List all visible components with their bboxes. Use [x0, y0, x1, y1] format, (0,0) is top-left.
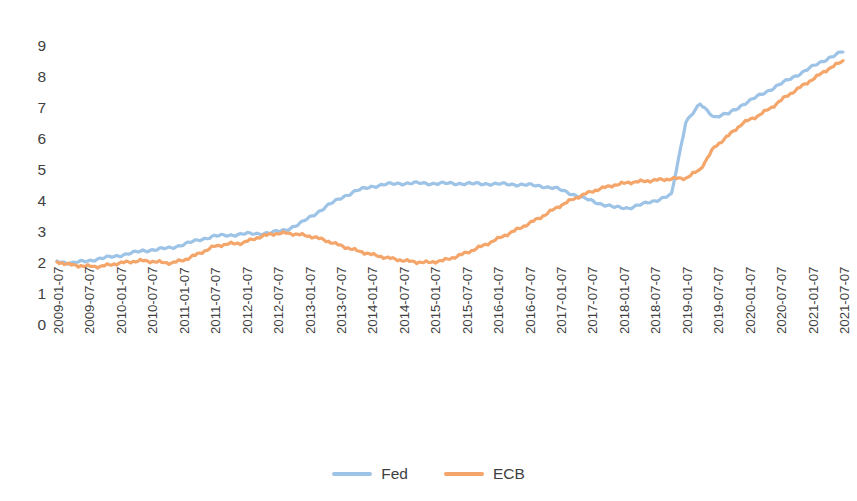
- legend-label: ECB: [493, 466, 525, 482]
- x-tick-label: 2017-07-07: [586, 267, 599, 334]
- legend-swatch-icon: [332, 472, 372, 476]
- legend-swatch-icon: [444, 472, 484, 476]
- x-tick-label: 2021-01-07: [807, 267, 820, 334]
- x-tick-label: 2020-07-07: [775, 267, 788, 334]
- x-tick-label: 2019-07-07: [712, 267, 725, 334]
- x-tick-label: 2010-01-07: [115, 267, 128, 334]
- x-tick-label: 2015-07-07: [461, 267, 474, 334]
- x-tick-label: 2016-01-07: [492, 267, 505, 334]
- x-tick-label: 2016-07-07: [524, 267, 537, 334]
- x-axis-labels: 2009-01-072009-07-072010-01-072010-07-07…: [0, 0, 857, 501]
- x-tick-label: 2017-01-07: [555, 267, 568, 334]
- x-tick-label: 2009-07-07: [83, 267, 96, 334]
- x-tick-label: 2011-07-07: [209, 268, 222, 334]
- x-tick-label: 2010-07-07: [146, 267, 159, 334]
- legend-item-ecb[interactable]: ECB: [444, 466, 525, 482]
- x-tick-label: 2018-01-07: [618, 267, 631, 334]
- x-tick-label: 2015-01-07: [429, 267, 442, 334]
- legend-label: Fed: [381, 466, 408, 482]
- x-tick-label: 2021-07-07: [838, 267, 851, 334]
- x-tick-label: 2020-01-07: [744, 267, 757, 334]
- legend-item-fed[interactable]: Fed: [332, 466, 408, 482]
- x-tick-label: 2011-01-07: [178, 268, 191, 334]
- x-tick-label: 2013-07-07: [335, 267, 348, 334]
- chart-legend: FedECB: [0, 462, 857, 486]
- x-tick-label: 2014-07-07: [398, 267, 411, 334]
- x-tick-label: 2014-01-07: [366, 267, 379, 334]
- line-chart: 9876543210 2009-01-072009-07-072010-01-0…: [0, 0, 857, 501]
- x-tick-label: 2018-07-07: [649, 267, 662, 334]
- x-tick-label: 2019-01-07: [681, 267, 694, 334]
- x-tick-label: 2013-01-07: [304, 267, 317, 334]
- x-tick-label: 2012-01-07: [241, 267, 254, 334]
- x-tick-label: 2009-01-07: [52, 267, 65, 334]
- x-tick-label: 2012-07-07: [272, 267, 285, 334]
